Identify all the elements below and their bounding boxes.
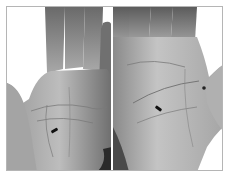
right-palm-panel (113, 7, 223, 170)
right-palm-photo (113, 7, 223, 170)
left-palm-panel (7, 7, 112, 170)
left-palm-photo (7, 7, 112, 170)
image-frame (6, 6, 223, 171)
